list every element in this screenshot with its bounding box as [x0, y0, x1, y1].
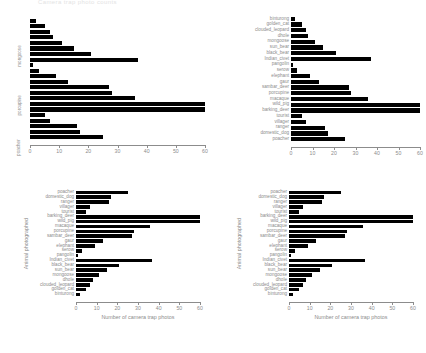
bar-row: [291, 97, 420, 101]
bar: [291, 17, 295, 21]
bar-row: [289, 195, 413, 199]
bar-row: [291, 45, 420, 49]
bar: [76, 220, 200, 224]
x-axis-tick-label: 60: [417, 151, 423, 156]
bar-row: [289, 205, 413, 209]
bar-row: [76, 191, 200, 195]
panel-bottom-right: poacherdomestic_dograngervillagertourist…: [213, 176, 426, 353]
bar-row: [30, 119, 205, 123]
bar-row: [289, 249, 413, 253]
bar: [291, 85, 349, 89]
x-axis-tick-label: 50: [173, 149, 179, 154]
y-axis-tick-label: elephant: [271, 74, 289, 79]
bar: [30, 74, 56, 78]
x-axis-tick-label: 10: [94, 306, 100, 311]
bar: [291, 51, 336, 55]
bar: [289, 283, 303, 287]
bar-row: [289, 273, 413, 277]
x-axis-tick-label: 60: [197, 306, 203, 311]
bar-row: [30, 24, 205, 28]
bar: [30, 85, 109, 89]
bar-row: [291, 28, 420, 32]
bar: [76, 268, 107, 272]
bar-row: [289, 244, 413, 248]
x-axis-tick-label: 30: [115, 149, 121, 154]
x-axis-tick-label: 20: [85, 149, 91, 154]
bar: [30, 107, 205, 111]
bar-row: [289, 200, 413, 204]
bar-row: [30, 69, 205, 73]
bar-row: [289, 239, 413, 243]
x-axis-tick-label: 60: [410, 306, 416, 311]
bar-row: [76, 239, 200, 243]
bar: [76, 210, 86, 214]
bar-row: [289, 293, 413, 297]
bar: [291, 57, 371, 61]
bar: [76, 200, 109, 204]
bar-row: [76, 205, 200, 209]
bar-row: [30, 35, 205, 39]
bar-row: [291, 114, 420, 118]
y-axis-tick-label: serow: [277, 68, 289, 73]
bar-row: [30, 102, 205, 106]
bar: [289, 195, 324, 199]
bar-row: [76, 215, 200, 219]
bar-row: [289, 254, 413, 258]
bar-row: [291, 108, 420, 112]
plot-area: [30, 18, 205, 140]
bar-row: [291, 63, 420, 67]
bar: [291, 137, 345, 141]
y-axis-labels: binturonggolden_catclouded_leoparddholem…: [213, 16, 289, 142]
bar: [289, 278, 306, 282]
bar: [289, 210, 299, 214]
bar: [291, 103, 420, 107]
bar: [289, 259, 365, 263]
x-axis-tick-label: 30: [348, 306, 354, 311]
bar-row: [289, 259, 413, 263]
x-axis-tick-label: 40: [156, 306, 162, 311]
bar: [291, 34, 308, 38]
bar: [30, 19, 36, 23]
bar: [30, 124, 77, 128]
bar-row: [30, 63, 205, 67]
bar-row: [76, 283, 200, 287]
bar: [289, 273, 312, 277]
bar-row: [30, 46, 205, 50]
bar: [291, 63, 293, 67]
bar: [30, 91, 112, 95]
bar: [30, 58, 138, 62]
bar: [291, 108, 420, 112]
bar: [76, 244, 95, 248]
bar-row: [76, 234, 200, 238]
panel-bottom-left: poacherdomestic_dograngervillagertourist…: [0, 176, 213, 353]
bar-row: [289, 225, 413, 229]
figure-top-caption: Camera trap photo counts: [38, 0, 117, 5]
bar-row: [289, 210, 413, 214]
bar: [30, 46, 74, 50]
x-axis-title: Number of camera trap photos: [76, 315, 200, 320]
bar: [289, 200, 322, 204]
x-axis-tick-label: 0: [290, 151, 293, 156]
bar: [291, 45, 323, 49]
y-axis-labels: poacherdomestic_dograngervillagertourist…: [0, 190, 74, 297]
x-axis-tick-label: 20: [114, 306, 120, 311]
x-axis-tick-label: 10: [310, 151, 316, 156]
bar: [30, 41, 62, 45]
bar: [289, 220, 413, 224]
x-axis-tick-label: 50: [396, 151, 402, 156]
y-axis-tick-label: domestic_dog: [260, 131, 289, 136]
bar-row: [30, 113, 205, 117]
bar: [76, 273, 99, 277]
bar-row: [76, 268, 200, 272]
y-axis-tick-label: binturong: [268, 292, 287, 297]
bar: [76, 191, 128, 195]
bar-row: [289, 288, 413, 292]
bar: [76, 254, 78, 258]
bar: [291, 28, 306, 32]
x-axis-title: Number of camera trap photos: [289, 315, 413, 320]
bar: [291, 74, 310, 78]
panel-top-right: binturonggolden_catclouded_leoparddholem…: [213, 0, 426, 176]
bar: [30, 135, 103, 139]
bar-row: [76, 244, 200, 248]
y-axis-tick-label: poacher: [272, 137, 289, 142]
